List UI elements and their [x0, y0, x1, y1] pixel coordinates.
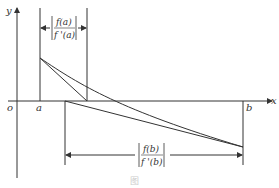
- newton-method-diagram: y x o a b f(a) f '(a) f(b) f '(b) 图: [0, 0, 279, 188]
- tangent-at-b: [65, 101, 243, 147]
- b-label: b: [246, 102, 252, 113]
- bottom-numerator: f(b): [142, 144, 160, 154]
- x-axis-label: x: [271, 95, 277, 106]
- a-label: a: [36, 102, 42, 113]
- top-denominator: f '(a): [53, 30, 76, 40]
- y-axis-label: y: [5, 5, 12, 16]
- bottom-denominator: f '(b): [140, 157, 163, 167]
- origin-label: o: [7, 102, 13, 113]
- top-numerator: f(a): [55, 17, 72, 27]
- tangent-at-a: [40, 58, 87, 101]
- figure-caption: 图: [130, 176, 139, 186]
